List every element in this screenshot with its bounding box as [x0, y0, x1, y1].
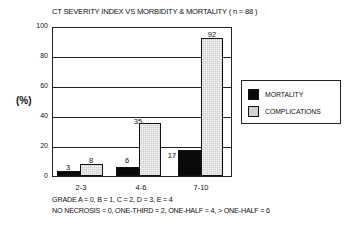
y-axis-label: (%)	[16, 95, 32, 106]
mortality-swatch	[248, 89, 259, 100]
legend-item-mortality: MORTALITY	[248, 89, 303, 100]
complications-swatch	[248, 106, 259, 117]
legend: MORTALITY COMPLICATIONS	[241, 80, 341, 124]
legend-label-complications: COMPLICATIONS	[265, 108, 321, 115]
bar-mortality-4-6	[116, 167, 139, 176]
label-complications-4-6: 35	[126, 117, 150, 126]
y-tick-80: 80	[18, 52, 48, 59]
y-tick-40: 40	[18, 112, 48, 119]
label-complications-7-10: 92	[200, 30, 224, 39]
bar-complications-4-6	[139, 123, 161, 176]
label-mortality-4-6: 6	[115, 156, 139, 165]
plot-area	[52, 27, 232, 177]
necrosis-note: NO NECROSIS = 0, ONE-THIRD = 2, ONE-HALF…	[52, 206, 270, 215]
y-tick-0: 0	[18, 172, 48, 179]
y-tick-100: 100	[18, 22, 48, 29]
legend-item-complications: COMPLICATIONS	[248, 106, 321, 117]
y-tick-20: 20	[18, 142, 48, 149]
x-tick-7-10: 7-10	[181, 183, 221, 192]
bar-complications-2-3	[80, 164, 103, 176]
label-mortality-2-3: 3	[56, 163, 80, 172]
label-mortality-7-10: 17	[160, 151, 184, 160]
legend-label-mortality: MORTALITY	[265, 91, 303, 98]
chart-title: CT SEVERITY INDEX VS MORBIDITY & MORTALI…	[52, 7, 257, 16]
bar-complications-7-10	[201, 38, 223, 176]
x-tick-4-6: 4-6	[121, 183, 161, 192]
grade-note: GRADE A = 0, B = 1, C = 2, D = 3, E = 4	[52, 195, 173, 204]
x-tick-2-3: 2-3	[61, 183, 101, 192]
label-complications-2-3: 8	[79, 156, 103, 165]
y-tick-60: 60	[18, 82, 48, 89]
